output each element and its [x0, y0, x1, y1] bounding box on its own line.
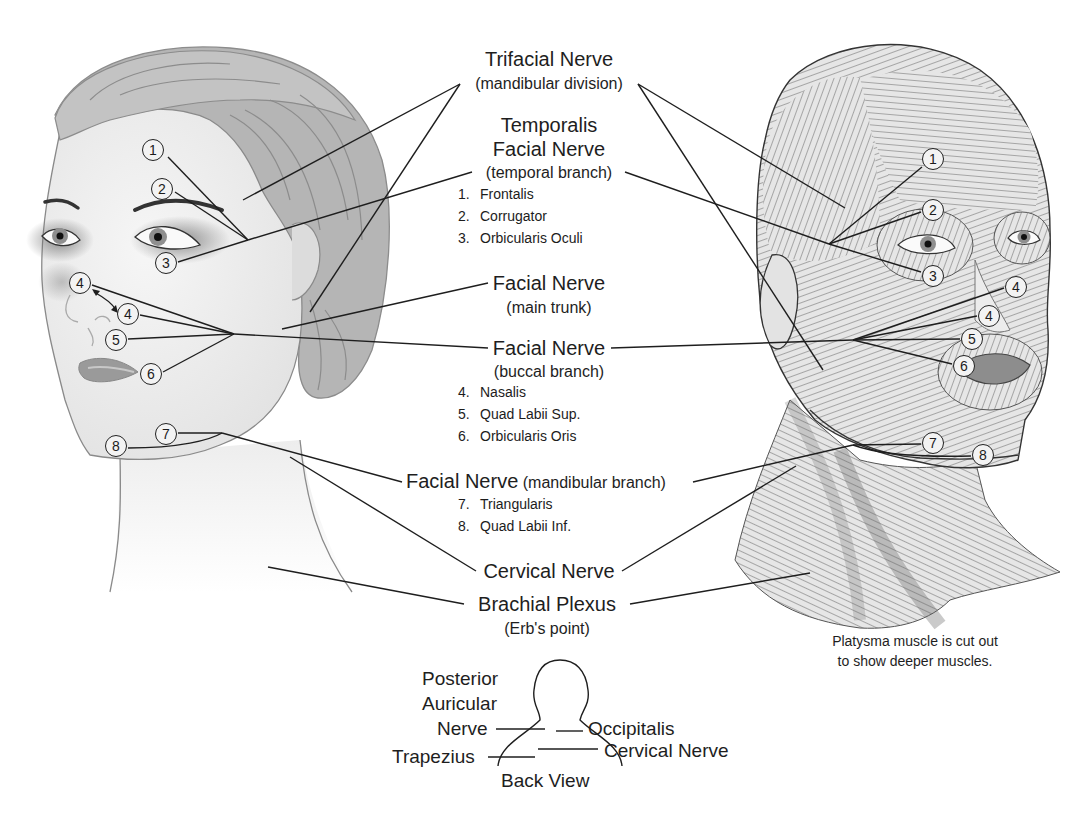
muscle-item-corrugator: 2.Corrugator [458, 208, 547, 225]
callout-2-corrugator-right: 2 [922, 199, 944, 221]
back-label-auricular: Auricular [422, 693, 497, 715]
label-facial-nerve-temporal: Facial Nerve [493, 138, 605, 160]
label-facial-nerve-mandibular: Facial Nerve (mandibular branch) [406, 470, 666, 492]
callout-1-frontalis-right: 1 [922, 148, 944, 170]
callout-5-quad-labii-sup-right: 5 [961, 328, 983, 350]
label-facial-nerve-main: Facial Nerve [493, 272, 605, 294]
label-main-trunk: (main trunk) [506, 298, 591, 317]
muscle-item-quad-labii-sup: 5.Quad Labii Sup. [458, 406, 580, 423]
muscle-item-quad-labii-inf: 8.Quad Labii Inf. [458, 518, 571, 535]
callout-3-orbicularis-oculi-left: 3 [155, 252, 177, 274]
callout-6-orbicularis-oris-right: 6 [953, 355, 975, 377]
label-temporalis: Temporalis [501, 114, 598, 136]
label-temporal-branch: (temporal branch) [486, 163, 612, 182]
label-cervical-nerve: Cervical Nerve [483, 560, 614, 582]
diagram-canvas: 1 2 3 4 4 5 6 7 8 1 2 3 4 4 5 6 7 8 Trif… [0, 0, 1089, 818]
callout-3-orbicularis-oculi-right: 3 [922, 265, 944, 287]
back-view-illustration [488, 660, 622, 766]
back-label-trapezius: Trapezius [392, 746, 475, 768]
callout-4-nasalis-left-a: 4 [69, 272, 91, 294]
callout-7-triangularis-right: 7 [922, 432, 944, 454]
back-label-occipitalis: Occipitalis [588, 718, 675, 740]
label-trifacial-sub: (mandibular division) [475, 74, 623, 93]
right-muscle-illustration [735, 45, 1060, 629]
callout-8-quad-labii-inf-left: 8 [105, 435, 127, 457]
callout-6-orbicularis-oris-left: 6 [140, 363, 162, 385]
callout-4-nasalis-right-a: 4 [1005, 276, 1027, 298]
note-line-1: Platysma muscle is cut out [832, 633, 998, 650]
callout-2-corrugator-left: 2 [151, 178, 173, 200]
back-label-cervical-nerve: Cervical Nerve [604, 740, 729, 762]
callout-4-nasalis-left-b: 4 [117, 303, 139, 325]
label-brachial-plexus: Brachial Plexus [478, 593, 616, 615]
label-erbs-point: (Erb's point) [504, 619, 590, 638]
callout-5-quad-labii-sup-left: 5 [105, 329, 127, 351]
callout-8-quad-labii-inf-right: 8 [972, 444, 994, 466]
callout-7-triangularis-left: 7 [155, 423, 177, 445]
back-label-nerve: Nerve [437, 718, 488, 740]
label-trifacial-nerve: Trifacial Nerve [485, 48, 613, 70]
muscle-item-nasalis: 4.Nasalis [458, 384, 526, 401]
callout-1-frontalis-left: 1 [142, 139, 164, 161]
muscle-item-triangularis: 7.Triangularis [458, 496, 553, 513]
label-buccal-branch: (buccal branch) [494, 362, 604, 381]
left-face-illustration [26, 47, 389, 592]
back-label-posterior: Posterior [422, 668, 498, 690]
label-facial-nerve-buccal: Facial Nerve [493, 337, 605, 359]
callout-4-nasalis-right-b: 4 [978, 305, 1000, 327]
back-view-caption: Back View [501, 770, 589, 792]
muscle-item-orbicularis-oris: 6.Orbicularis Oris [458, 428, 576, 445]
muscle-item-orbicularis-oculi: 3.Orbicularis Oculi [458, 230, 583, 247]
muscle-item-frontalis: 1.Frontalis [458, 186, 534, 203]
note-line-2: to show deeper muscles. [838, 653, 993, 670]
